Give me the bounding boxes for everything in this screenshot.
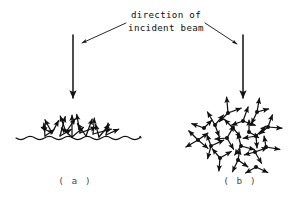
scattering-centre-dot: [239, 144, 243, 148]
scattering-centre-dot: [253, 150, 257, 154]
volume-ray: [211, 140, 224, 146]
scattering-centre-dot: [236, 158, 240, 162]
panel-label-b: ( b ): [223, 175, 257, 186]
volume-ray: [268, 127, 282, 128]
surface-ray: [86, 119, 92, 136]
annotation-line-2: incident beam: [128, 22, 204, 33]
scattering-centre-dot: [231, 126, 235, 130]
surface-ray: [96, 124, 99, 137]
panel-a-diagram: [16, 114, 141, 139]
scattering-centre-dot: [254, 134, 258, 138]
volume-ray: [186, 140, 198, 147]
scattering-centre-dot: [247, 130, 251, 134]
leader-left: [82, 23, 126, 43]
volume-ray: [256, 126, 266, 136]
volume-scattered-rays: [186, 97, 282, 173]
figure-canvas: direction of incident beam ( a ) ( b ): [0, 0, 301, 197]
scattering-centre-dot: [226, 111, 230, 115]
scattering-centre-dot: [209, 144, 213, 148]
volume-ray: [241, 146, 255, 150]
surface-scattered-rays: [41, 114, 118, 137]
surface-ray: [44, 123, 45, 136]
volume-ray: [228, 108, 241, 113]
volume-ray: [243, 107, 248, 121]
scattering-centre-dot: [218, 156, 222, 160]
rough-surface-wavy-line: [16, 136, 141, 139]
scattering-centre-dot: [202, 126, 206, 130]
volume-ray: [227, 97, 228, 113]
scattering-centre-dot: [241, 119, 245, 123]
surface-ray: [77, 124, 86, 136]
surface-ray: [93, 118, 94, 134]
scattering-centre-dot: [266, 125, 270, 129]
panel-label-a: ( a ): [58, 175, 92, 186]
scattering-figure: direction of incident beam ( a ) ( b ): [0, 0, 301, 197]
scattering-centre-dot: [213, 123, 217, 127]
volume-ray: [257, 98, 259, 112]
panel-b-diagram: [186, 97, 282, 173]
scattering-centre-dot: [255, 110, 259, 114]
scattering-centre-dot: [254, 165, 258, 169]
incident-beam-arrows: [73, 35, 243, 98]
scattering-centre-dot: [225, 136, 229, 140]
leader-right: [205, 23, 237, 44]
scattering-centre-dot: [196, 138, 200, 142]
scattering-centre-dot: [264, 145, 268, 149]
annotation-line-1: direction of: [131, 9, 201, 20]
volume-ray: [266, 147, 280, 149]
beam-annotation: direction of incident beam: [128, 9, 204, 33]
scattering-centres: [196, 110, 270, 169]
